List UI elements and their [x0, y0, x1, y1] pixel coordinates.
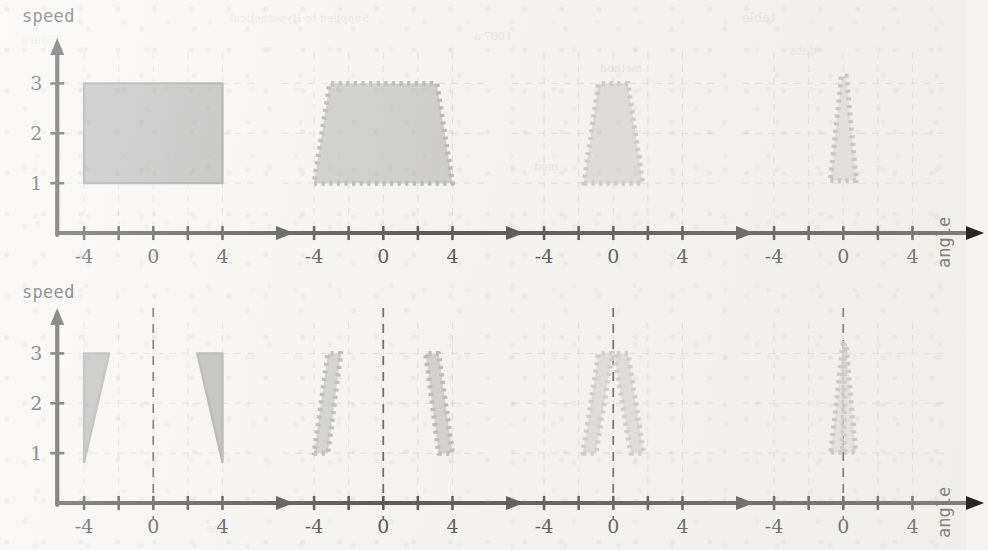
x-axis: -404 — [508, 226, 754, 267]
y-tick-label: 1 — [30, 442, 42, 464]
x-axis: -404 — [738, 226, 984, 267]
region-right-cone — [844, 343, 856, 452]
x-tick-label: -4 — [305, 245, 324, 267]
x-tick-label: 0 — [837, 515, 849, 537]
x-tick-label: -4 — [305, 515, 324, 537]
x-tick-label: 4 — [676, 245, 688, 267]
y-tick-label: 3 — [30, 72, 42, 94]
x-axis: -404 — [57, 226, 294, 267]
x-tick-label: 4 — [906, 515, 918, 537]
x-axis: -404 — [278, 496, 524, 537]
region-full-box — [84, 83, 222, 183]
x-tick-label: -4 — [75, 515, 94, 537]
x-tick-label: -4 — [535, 515, 554, 537]
panel-r1-c3: -404 — [736, 316, 988, 550]
panel-r0-c3: -404 — [736, 46, 988, 312]
x-axis: -404 — [57, 496, 294, 537]
x-axis: -404 — [278, 226, 524, 267]
x-tick-label: -4 — [535, 245, 554, 267]
x-tick-label: 0 — [607, 245, 619, 267]
x-tick-label: 4 — [216, 245, 228, 267]
x-tick-label: 4 — [446, 245, 458, 267]
x-tick-label: -4 — [75, 245, 94, 267]
x-tick-label: -4 — [765, 515, 784, 537]
x-tick-label: 0 — [837, 245, 849, 267]
y-tick-label: 2 — [30, 122, 42, 144]
gridlines — [282, 322, 490, 517]
region-left-sliver — [84, 353, 109, 462]
region-wide-trapezoid — [314, 83, 452, 183]
x-tick-label: 4 — [446, 515, 458, 537]
x-tick-label: 4 — [676, 515, 688, 537]
gridlines — [512, 322, 720, 517]
x-tick-label: 0 — [377, 515, 389, 537]
y-tick-label: 1 — [30, 172, 42, 194]
y-axis: 123 — [30, 308, 64, 505]
x-tick-label: 0 — [147, 515, 159, 537]
y-tick-label: 3 — [30, 342, 42, 364]
x-axis: -404 — [738, 496, 984, 537]
x-tick-label: 4 — [906, 245, 918, 267]
region-narrow-trapezoid — [584, 83, 643, 183]
y-tick-label: 2 — [30, 392, 42, 414]
x-tick-label: 0 — [147, 245, 159, 267]
y-axis-label-top: speed — [22, 6, 75, 26]
x-tick-label: 0 — [607, 515, 619, 537]
x-tick-label: 0 — [377, 245, 389, 267]
region-cone — [830, 76, 856, 181]
x-tick-label: 4 — [216, 515, 228, 537]
region-right-sliver — [197, 353, 222, 462]
region-right-band — [426, 353, 453, 453]
x-axis: -404 — [508, 496, 754, 537]
y-axis: 123 — [30, 38, 64, 235]
x-tick-label: -4 — [765, 245, 784, 267]
